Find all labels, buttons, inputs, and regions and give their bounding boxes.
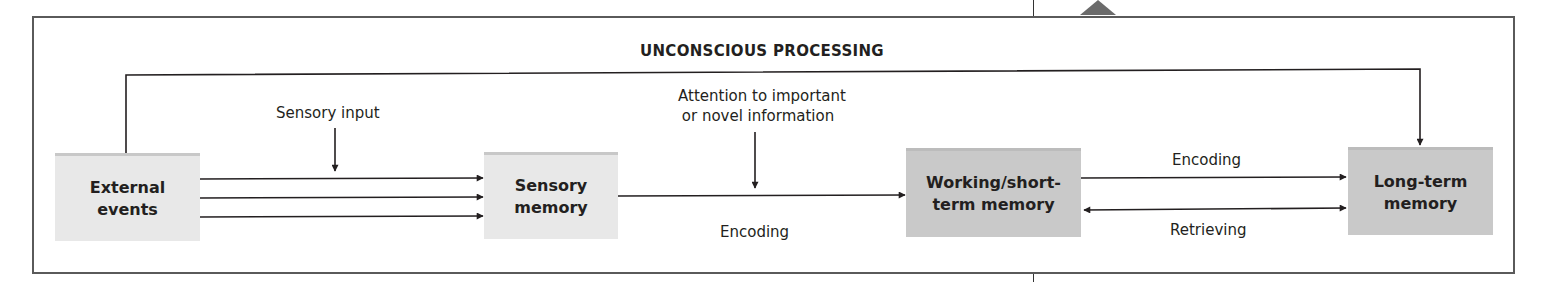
- attention-label-line1: Attention to important: [678, 86, 838, 106]
- working-memory-box: Working/short- term memory: [906, 148, 1081, 237]
- sensory-memory-box: Sensory memory: [484, 152, 618, 239]
- unconscious-processing-title: UNCONSCIOUS PROCESSING: [640, 42, 884, 60]
- working-memory-label-line1: Working/short-: [926, 172, 1061, 194]
- external-events-label-line2: events: [90, 199, 165, 221]
- long-term-memory-box: Long-term memory: [1348, 147, 1493, 235]
- sensory-input-label: Sensory input: [276, 103, 380, 123]
- encoding-label-working-longterm: Encoding: [1172, 150, 1241, 170]
- working-memory-label-line2: term memory: [926, 194, 1061, 216]
- external-events-label-line1: External: [90, 177, 165, 199]
- external-events-box: External events: [55, 153, 200, 241]
- sensory-memory-label-line1: Sensory: [514, 175, 588, 197]
- attention-label-line2: or novel information: [678, 106, 838, 126]
- sensory-memory-label-line2: memory: [514, 197, 588, 219]
- attention-label: Attention to important or novel informat…: [678, 86, 838, 126]
- long-term-memory-label-line1: Long-term: [1374, 171, 1468, 193]
- encoding-label-sensory-working: Encoding: [720, 222, 789, 242]
- retrieving-label: Retrieving: [1170, 220, 1247, 240]
- long-term-memory-label-line2: memory: [1374, 193, 1468, 215]
